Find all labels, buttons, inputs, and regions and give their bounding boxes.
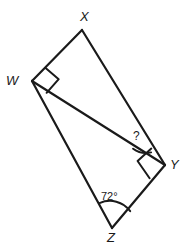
edge-ZY <box>112 165 165 228</box>
right-angle-marker-w <box>45 68 58 93</box>
angle-measure-label-z: 72° <box>101 191 118 202</box>
vertex-label-z: Z <box>107 231 115 244</box>
edge-WZ <box>32 81 112 228</box>
vertex-label-x: X <box>80 10 89 23</box>
angle-arc-z <box>100 201 131 211</box>
geometry-canvas <box>0 0 189 247</box>
unknown-angle-label: ? <box>133 130 140 142</box>
geometry-figure: X W Y Z ? 72° <box>0 0 189 247</box>
vertex-label-y: Y <box>170 158 179 171</box>
edge-WX <box>32 30 82 81</box>
edge-XY <box>82 30 165 165</box>
polygon-edges <box>32 30 165 228</box>
vertex-label-w: W <box>6 74 18 87</box>
